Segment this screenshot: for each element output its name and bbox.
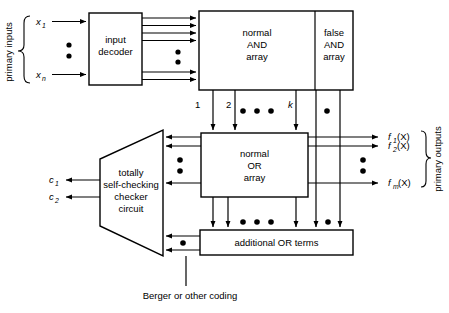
checker-label-line4: circuit xyxy=(119,203,144,214)
self-checking-pla-diagram: primary inputs x 1 x n input decoder nor… xyxy=(0,0,449,313)
additional-or-terms-label: additional OR terms xyxy=(235,237,319,248)
output-ellipsis-dot-1 xyxy=(360,157,366,163)
checker-label-line2: self-checking xyxy=(103,179,158,190)
product-term-ellipsis-dot-2 xyxy=(254,108,260,114)
checker-output-c2-subscript: 2 xyxy=(54,197,59,204)
coding-annotation-label: Berger or other coding xyxy=(143,290,238,301)
primary-inputs-label: primary inputs xyxy=(3,22,14,82)
output-ellipsis-dot-2 xyxy=(360,168,366,174)
input-ellipsis-dot-2 xyxy=(66,53,71,58)
product-term-ellipsis-dot-3 xyxy=(268,108,274,114)
input-x1-subscript: 1 xyxy=(42,22,46,29)
normal-or-label-line1: normal xyxy=(240,148,269,159)
checker-output-c1-label: c xyxy=(49,174,54,185)
or-down-ellipsis-dot-3 xyxy=(268,219,274,225)
or-to-checker-ellipsis-dot-2 xyxy=(177,168,183,174)
input-decoder-label-line2: decoder xyxy=(98,46,132,57)
or-down-ellipsis-dot-1 xyxy=(240,219,246,225)
false-and-label-line2: AND xyxy=(324,39,344,50)
product-term-1-label: 1 xyxy=(195,99,200,110)
decoder-bus-ellipsis-dot-1 xyxy=(175,49,180,54)
output-fm-arg: (X) xyxy=(398,177,411,188)
normal-and-label-line3: array xyxy=(246,51,268,62)
input-ellipsis-dot-1 xyxy=(66,42,71,47)
input-xn-subscript: n xyxy=(42,75,46,82)
product-term-ellipsis-dot-1 xyxy=(240,108,246,114)
checker-label-line3: checker xyxy=(114,191,147,202)
product-term-2-label: 2 xyxy=(226,99,231,110)
false-and-label-line3: array xyxy=(323,51,345,62)
or-down-ellipsis-dot-2 xyxy=(254,219,260,225)
false-and-label-line1: false xyxy=(324,27,344,38)
and-array-group: normal AND array false AND array xyxy=(199,11,353,90)
normal-and-label-line1: normal xyxy=(242,27,271,38)
checker-output-c2-label: c xyxy=(49,191,54,202)
normal-or-label-line3: array xyxy=(244,172,266,183)
normal-and-label-line2: AND xyxy=(247,39,267,50)
normal-or-array-block: normal OR array xyxy=(201,133,308,197)
checker-label-line1: totally xyxy=(119,167,144,178)
input-decoder-label-line1: input xyxy=(105,34,126,45)
or-to-checker-ellipsis-dot-1 xyxy=(177,157,183,163)
normal-or-label-line2: OR xyxy=(247,160,261,171)
checker-output-c1-subscript: 1 xyxy=(55,180,59,187)
primary-outputs-label: primary outputs xyxy=(432,126,443,192)
false-and-bypass-ellipsis-dot xyxy=(325,219,331,225)
false-and-ellipsis-dot xyxy=(324,108,330,114)
decoder-bus-ellipsis-dot-2 xyxy=(175,59,180,64)
input-decoder-block: input decoder xyxy=(89,13,142,85)
additional-or-terms-block: additional OR terms xyxy=(200,230,353,255)
additional-to-checker-ellipsis-dot xyxy=(180,240,186,246)
output-f2-arg: (X) xyxy=(397,140,410,151)
